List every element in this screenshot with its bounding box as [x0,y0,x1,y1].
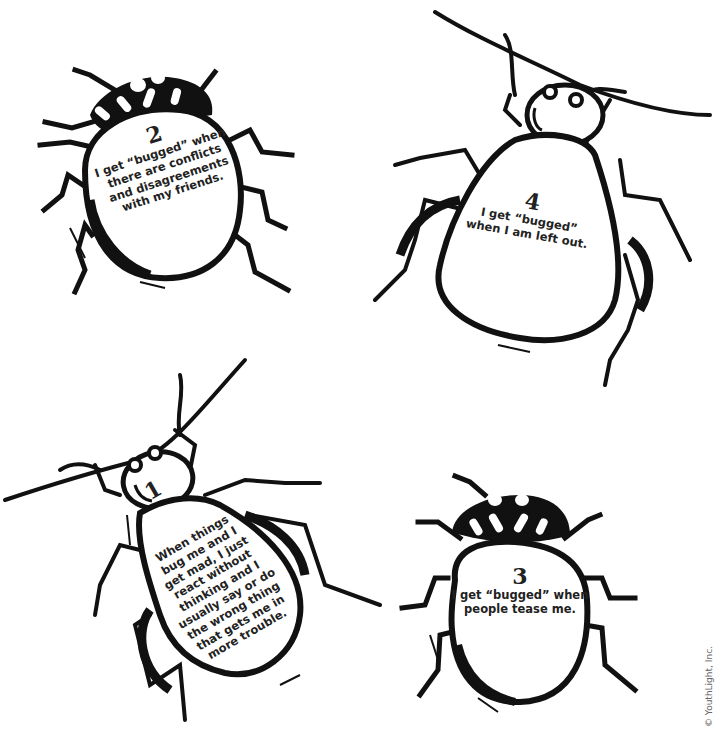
bug-text-3: 3 I get “bugged” when people tease me. [440,565,600,617]
bug-card-2: 2 I get “bugged” when there are conflict… [30,60,290,310]
copyright-notice: © YouthLight, Inc. [704,646,714,727]
bug-card-1: 1 When things bug me and I get mad, I ju… [0,355,390,741]
bug-card-3: 3 I get “bugged” when people tease me. [390,470,650,741]
bug-card-4: 4 I get “bugged” when I am left out. [370,0,716,400]
bug-line: I get “bugged” when [440,589,600,603]
bug-line: people tease me. [440,603,600,617]
bug-number-3: 3 [440,565,600,587]
